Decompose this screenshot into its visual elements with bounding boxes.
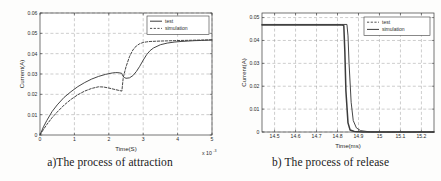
x-tick-label: 4 bbox=[176, 136, 179, 142]
caption-attraction: a)The process of attraction bbox=[0, 156, 220, 168]
svg-text:x 10: x 10 bbox=[202, 150, 212, 156]
x-tick-label: 14.9 bbox=[354, 133, 364, 139]
caption-release: b) The process of release bbox=[220, 156, 441, 168]
x-tick-label: 14.5 bbox=[270, 133, 280, 139]
y-axis-title: Current(A) bbox=[240, 58, 247, 86]
y-tick-label: 0.04 bbox=[27, 51, 37, 57]
y-tick-label: 0.04 bbox=[249, 37, 259, 43]
x-tick-label: 15.2 bbox=[416, 133, 426, 139]
y-tick-label: 0.02 bbox=[27, 91, 37, 97]
chart-release: 14.514.614.714.814.91515.115.200.010.020… bbox=[220, 0, 441, 156]
x-tick-label: 14.8 bbox=[333, 133, 343, 139]
y-tick-label: 0 bbox=[35, 132, 38, 138]
x-tick-label: 1 bbox=[73, 136, 76, 142]
y-tick-label: 0 bbox=[257, 129, 260, 135]
legend-label-simulation: simulation bbox=[165, 25, 188, 31]
x-axis-title: Time(S) bbox=[115, 145, 136, 152]
x-tick-label: 15.1 bbox=[395, 133, 405, 139]
legend: testsimulation bbox=[147, 16, 209, 34]
x-axis-title: Time(ms) bbox=[335, 142, 361, 149]
svg-text:-3: -3 bbox=[213, 149, 216, 153]
figure-attraction: 01234500.010.020.030.040.050.06Time(S)Cu… bbox=[0, 0, 220, 181]
legend-label-simulation: simulation bbox=[382, 26, 405, 32]
chart-attraction: 01234500.010.020.030.040.050.06Time(S)Cu… bbox=[0, 0, 220, 156]
y-axis-title: Current(A) bbox=[18, 60, 25, 88]
y-tick-label: 0.05 bbox=[249, 14, 259, 20]
y-tick-label: 0.03 bbox=[249, 60, 259, 66]
x-axis-multiplier: x 10-3 bbox=[202, 149, 216, 156]
x-tick-label: 3 bbox=[142, 136, 145, 142]
figure-release: 14.514.614.714.814.91515.115.200.010.020… bbox=[220, 0, 441, 181]
x-tick-label: 14.7 bbox=[312, 133, 322, 139]
y-tick-label: 0.02 bbox=[249, 83, 259, 89]
y-tick-label: 0.01 bbox=[249, 106, 259, 112]
y-tick-label: 0.03 bbox=[27, 71, 37, 77]
y-tick-label: 0.05 bbox=[27, 30, 37, 36]
legend-label-test: test bbox=[382, 19, 391, 25]
y-tick-label: 0.06 bbox=[27, 10, 37, 16]
y-tick-label: 0.01 bbox=[27, 112, 37, 118]
legend: testsimulation bbox=[364, 17, 430, 35]
x-tick-label: 0 bbox=[39, 136, 42, 142]
figure-page: 01234500.010.020.030.040.050.06Time(S)Cu… bbox=[0, 0, 441, 181]
x-tick-label: 15 bbox=[377, 133, 383, 139]
x-tick-label: 2 bbox=[107, 136, 110, 142]
x-tick-label: 14.6 bbox=[291, 133, 301, 139]
legend-label-test: test bbox=[165, 18, 174, 24]
x-tick-label: 5 bbox=[211, 136, 214, 142]
